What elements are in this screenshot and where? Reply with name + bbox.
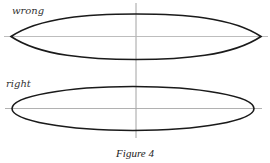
diagram-canvas — [0, 0, 270, 163]
label-wrong: wrong — [12, 6, 44, 16]
label-right: right — [6, 79, 31, 89]
figure-4: wrong right Figure 4 — [0, 0, 270, 163]
figure-caption: Figure 4 — [0, 148, 270, 159]
